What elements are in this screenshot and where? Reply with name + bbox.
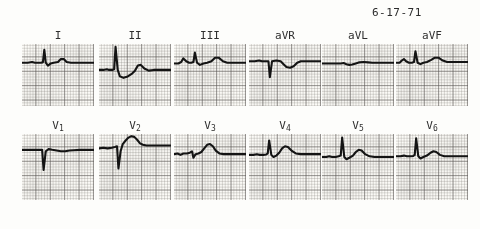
ecg-waveform-v5 (322, 134, 394, 174)
ecg-grid-panel-avr (249, 44, 321, 106)
waveform-path (174, 144, 246, 158)
ecg-waveform-v4 (249, 134, 321, 174)
ecg-waveform-avl (322, 44, 394, 84)
ecg-grid-panel-i (22, 44, 94, 106)
ecg-waveform-v1 (22, 134, 94, 174)
ecg-grid-panel-ii (99, 44, 171, 106)
lead-label-avl: aVL (322, 30, 394, 42)
waveform-path (322, 138, 394, 160)
lead-panel-avf: aVF (396, 30, 468, 106)
lead-panel-ii: II (99, 30, 171, 106)
ecg-grid-panel-v3 (174, 134, 246, 200)
lead-label-subscript: 5 (359, 124, 364, 133)
waveform-path (174, 53, 246, 65)
lead-panel-avl: aVL (322, 30, 394, 106)
waveform-path (322, 62, 394, 65)
lead-panel-v6: V6 (396, 120, 468, 200)
waveform-path (396, 138, 468, 158)
lead-label-subscript: 2 (136, 124, 141, 133)
ecg-grid-panel-v5 (322, 134, 394, 200)
lead-label-i: I (22, 30, 94, 42)
ecg-grid-panel-avl (322, 44, 394, 106)
lead-label-avr: aVR (249, 30, 321, 42)
lead-label-subscript: 4 (286, 124, 291, 133)
ecg-sheet: 6-17-71 IIIIIIaVRaVLaVFV1V2V3V4V5V6 (0, 0, 480, 229)
lead-panel-v3: V3 (174, 120, 246, 200)
lead-label-subscript: 6 (433, 124, 438, 133)
ecg-waveform-v6 (396, 134, 468, 174)
lead-panel-iii: III (174, 30, 246, 106)
ecg-waveform-avf (396, 44, 468, 84)
ecg-waveform-ii (99, 44, 171, 84)
waveform-path (99, 136, 171, 168)
ecg-waveform-v3 (174, 134, 246, 174)
ecg-waveform-i (22, 44, 94, 84)
ecg-waveform-v2 (99, 134, 171, 174)
waveform-path (249, 61, 321, 78)
lead-label-iii: III (174, 30, 246, 42)
ecg-waveform-avr (249, 44, 321, 84)
lead-panel-v4: V4 (249, 120, 321, 200)
lead-label-avf: aVF (396, 30, 468, 42)
lead-panel-i: I (22, 30, 94, 106)
lead-panel-v2: V2 (99, 120, 171, 200)
lead-panel-avr: aVR (249, 30, 321, 106)
waveform-path (22, 50, 94, 66)
ecg-grid-panel-v4 (249, 134, 321, 200)
lead-label-subscript: 3 (211, 124, 216, 133)
waveform-path (99, 47, 171, 78)
ecg-grid-panel-v6 (396, 134, 468, 200)
ecg-grid-panel-v1 (22, 134, 94, 200)
ecg-grid-panel-iii (174, 44, 246, 106)
lead-panel-v1: V1 (22, 120, 94, 200)
lead-label-ii: II (99, 30, 171, 42)
ecg-grid-panel-v2 (99, 134, 171, 200)
waveform-path (396, 51, 468, 64)
lead-panel-v5: V5 (322, 120, 394, 200)
waveform-path (249, 140, 321, 157)
date-stamp: 6-17-71 (372, 6, 422, 19)
waveform-path (22, 149, 94, 170)
ecg-waveform-iii (174, 44, 246, 84)
lead-label-subscript: 1 (59, 124, 64, 133)
ecg-grid-panel-avf (396, 44, 468, 106)
